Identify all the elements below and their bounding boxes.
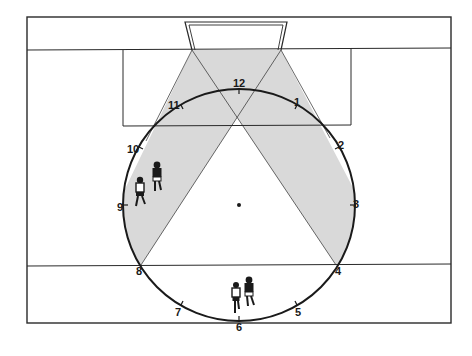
player-figure: [232, 282, 240, 313]
clock-label-11: 11: [168, 99, 180, 111]
clock-label-3: 3: [353, 198, 359, 210]
goalkeeper-angle-diagram: 12 1 2 3 4 5 6 7 8 9 10 11: [0, 0, 472, 356]
clock-label-12: 12: [233, 77, 245, 89]
goal-frame: [185, 22, 287, 50]
clock-label-4: 4: [335, 265, 342, 277]
clock-label-5: 5: [295, 306, 301, 318]
clock-label-10: 10: [127, 143, 139, 155]
player-figure: [245, 277, 255, 306]
center-spot: [237, 203, 241, 207]
clock-label-9: 9: [117, 201, 123, 213]
clock-label-1: 1: [294, 96, 300, 108]
clock-label-6: 6: [236, 321, 242, 333]
clock-label-8: 8: [136, 265, 142, 277]
clock-label-7: 7: [175, 306, 181, 318]
diagram-canvas: 12 1 2 3 4 5 6 7 8 9 10 11: [0, 0, 472, 356]
goal-line: [27, 48, 451, 50]
clock-label-2: 2: [338, 139, 344, 151]
